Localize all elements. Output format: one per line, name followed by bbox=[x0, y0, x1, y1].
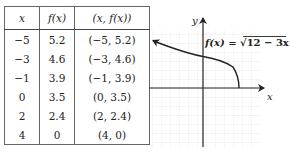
header-fx: f(x) bbox=[40, 7, 75, 30]
table-header-row: x f(x) (x, f(x)) bbox=[5, 7, 150, 30]
function-graph: x y f(x) = √12 − 3x bbox=[140, 0, 291, 154]
svg-text:f(x) = √12 − 3x: f(x) = √12 − 3x bbox=[204, 37, 290, 48]
cell-fx: 4.6 bbox=[40, 49, 75, 68]
equation-label: f(x) = √12 − 3x bbox=[204, 35, 290, 49]
cell-x: 0 bbox=[5, 87, 40, 106]
cell-fx: 0 bbox=[40, 125, 75, 145]
header-x: x bbox=[5, 7, 40, 30]
table-row: −3 4.6 (−3, 4.6) bbox=[5, 49, 150, 68]
cell-point: (0, 3.5) bbox=[75, 87, 150, 106]
table-row: 0 3.5 (0, 3.5) bbox=[5, 87, 150, 106]
cell-fx: 2.4 bbox=[40, 106, 75, 125]
values-table: x f(x) (x, f(x)) −5 5.2 (−5, 5.2) −3 4.6… bbox=[4, 6, 150, 145]
equation-prefix: f(x) = bbox=[204, 37, 240, 48]
cell-point: (−1, 3.9) bbox=[75, 68, 150, 87]
cell-point: (4, 0) bbox=[75, 125, 150, 145]
cell-x: 2 bbox=[5, 106, 40, 125]
cell-point: (−5, 5.2) bbox=[75, 30, 150, 50]
x-axis-label: x bbox=[267, 91, 273, 102]
cell-x: −3 bbox=[5, 49, 40, 68]
cell-x: −5 bbox=[5, 30, 40, 50]
table-row: 4 0 (4, 0) bbox=[5, 125, 150, 145]
cell-fx: 3.5 bbox=[40, 87, 75, 106]
header-point: (x, f(x)) bbox=[75, 7, 150, 30]
cell-point: (−3, 4.6) bbox=[75, 49, 150, 68]
cell-x: 4 bbox=[5, 125, 40, 145]
table-row: −5 5.2 (−5, 5.2) bbox=[5, 30, 150, 50]
table-row: −1 3.9 (−1, 3.9) bbox=[5, 68, 150, 87]
equation-radicand: 12 − 3x bbox=[247, 37, 290, 48]
cell-fx: 5.2 bbox=[40, 30, 75, 50]
table-row: 2 2.4 (2, 2.4) bbox=[5, 106, 150, 125]
cell-x: −1 bbox=[5, 68, 40, 87]
cell-point: (2, 2.4) bbox=[75, 106, 150, 125]
cell-fx: 3.9 bbox=[40, 68, 75, 87]
y-axis-label: y bbox=[191, 15, 198, 26]
